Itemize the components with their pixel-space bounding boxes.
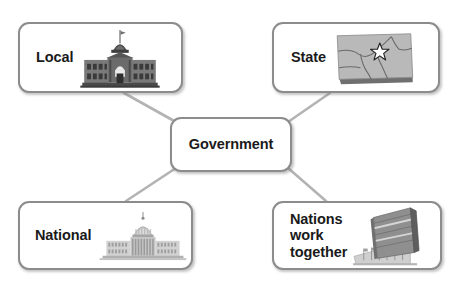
node-government-center[interactable]: Government	[170, 117, 292, 172]
connector-national-government	[126, 168, 176, 201]
diagram-canvas: Local	[0, 0, 458, 287]
connector-state-government	[288, 93, 330, 122]
node-state-label: State	[291, 49, 326, 65]
node-state[interactable]: State	[272, 22, 440, 93]
node-nations-label: Nations work together	[290, 211, 347, 260]
node-national-label: National	[35, 227, 91, 243]
un-headquarters-tower-icon	[349, 203, 429, 269]
node-national[interactable]: National	[18, 201, 193, 270]
connector-local-government	[124, 93, 176, 122]
node-government-label: Government	[189, 136, 273, 152]
node-local[interactable]: Local	[18, 22, 183, 93]
city-hall-building-icon	[77, 27, 163, 89]
us-capitol-building-icon	[93, 209, 193, 263]
node-nations-work-together[interactable]: Nations work together	[272, 201, 442, 270]
state-map-with-star-icon	[330, 27, 418, 89]
node-local-label: Local	[36, 49, 73, 65]
connector-nations-government	[288, 168, 326, 201]
